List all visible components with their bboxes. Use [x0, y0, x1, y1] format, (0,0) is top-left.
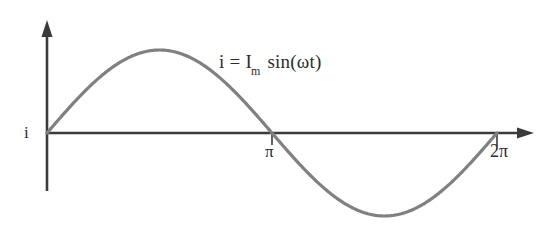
x-tick-label-2pi: 2π	[490, 142, 508, 160]
equation-equals-sign: =	[229, 51, 240, 72]
x-tick-label-pi: π	[265, 143, 274, 160]
waveform-plot	[0, 0, 557, 225]
sine-wave-figure: i π 2π i=Imsin(ωt)	[0, 0, 557, 225]
equation-lhs: i	[219, 51, 224, 72]
plot-background	[0, 0, 557, 225]
equation-amplitude-subscript: m	[251, 64, 261, 78]
equation-function: sin(ωt)	[267, 51, 321, 72]
equation-annotation: i=Imsin(ωt)	[219, 52, 322, 75]
y-axis-label: i	[24, 124, 29, 141]
